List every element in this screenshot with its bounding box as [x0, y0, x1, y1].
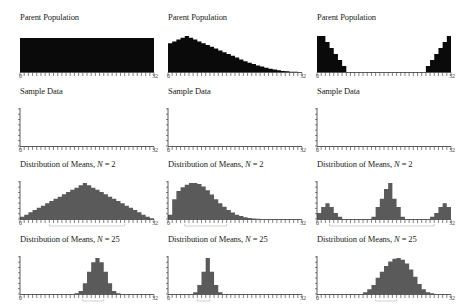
panel-empty-r1c0: Sample Data032 — [14, 86, 162, 154]
histogram-plot: 032 — [311, 12, 459, 80]
x-tick-label-min: 0 — [167, 147, 170, 153]
x-tick-label-min: 0 — [316, 147, 319, 153]
spread-indicator — [83, 299, 104, 301]
x-tick-label-max: 32 — [152, 295, 158, 301]
histogram-plot: 032 — [162, 234, 310, 302]
histogram-bars — [168, 183, 302, 219]
histogram-plot: 032 — [311, 234, 459, 302]
x-tick-label-min: 0 — [316, 73, 319, 79]
x-tick-label-min: 0 — [167, 295, 170, 301]
histogram-plot: 032 — [162, 86, 310, 154]
x-tick-label-max: 32 — [449, 73, 455, 79]
histogram-bars — [168, 36, 302, 72]
spread-indicator — [197, 299, 210, 301]
panel-parent-r0c2: Parent Population032 — [311, 12, 459, 80]
x-tick-label-max: 32 — [449, 147, 455, 153]
x-tick-label-max: 32 — [300, 147, 306, 153]
x-tick-label-max: 32 — [152, 73, 158, 79]
x-tick-label-max: 32 — [152, 147, 158, 153]
x-tick-label-min: 0 — [19, 220, 22, 226]
panel-empty-r1c2: Sample Data032 — [311, 86, 459, 154]
x-tick-label-min: 0 — [19, 295, 22, 301]
x-tick-label-min: 0 — [19, 73, 22, 79]
x-tick-label-min: 0 — [316, 220, 319, 226]
histogram-bars — [317, 258, 451, 294]
x-tick-label-max: 32 — [300, 73, 306, 79]
histogram-plot: 032 — [311, 86, 459, 154]
spread-indicator — [185, 224, 227, 226]
histogram-bars — [20, 38, 154, 72]
histogram-plot: 032 — [162, 12, 310, 80]
x-tick-label-min: 0 — [316, 295, 319, 301]
x-tick-label-min: 0 — [167, 73, 170, 79]
panel-means-r3c1: Distribution of Means, N = 25032 — [162, 234, 310, 302]
spread-indicator — [49, 224, 124, 226]
x-tick-label-min: 0 — [19, 147, 22, 153]
histogram-plot: 032 — [14, 12, 162, 80]
x-tick-label-max: 32 — [449, 295, 455, 301]
histogram-bars — [20, 183, 154, 219]
x-tick-label-max: 32 — [152, 220, 158, 226]
panel-empty-r1c1: Sample Data032 — [162, 86, 310, 154]
histogram-bars — [168, 258, 302, 294]
panel-parent-r0c0: Parent Population032 — [14, 12, 162, 80]
spread-indicator — [330, 224, 435, 226]
panel-means-r3c2: Distribution of Means, N = 25032 — [311, 234, 459, 302]
spread-indicator — [376, 299, 397, 301]
histogram-plot: 032 — [14, 159, 162, 227]
panel-means-r2c1: Distribution of Means, N = 2032 — [162, 159, 310, 227]
x-tick-label-min: 0 — [167, 220, 170, 226]
x-tick-label-max: 32 — [449, 220, 455, 226]
histogram-plot: 032 — [14, 86, 162, 154]
panel-means-r2c2: Distribution of Means, N = 2032 — [311, 159, 459, 227]
histogram-plot: 032 — [14, 234, 162, 302]
histogram-plot: 032 — [162, 159, 310, 227]
panel-parent-r0c1: Parent Population032 — [162, 12, 310, 80]
histogram-bars — [20, 258, 154, 294]
panel-means-r2c0: Distribution of Means, N = 2032 — [14, 159, 162, 227]
histogram-bars — [317, 183, 451, 219]
x-tick-label-max: 32 — [300, 295, 306, 301]
histogram-bars — [317, 36, 451, 72]
panel-means-r3c0: Distribution of Means, N = 25032 — [14, 234, 162, 302]
x-tick-label-max: 32 — [300, 220, 306, 226]
histogram-plot: 032 — [311, 159, 459, 227]
